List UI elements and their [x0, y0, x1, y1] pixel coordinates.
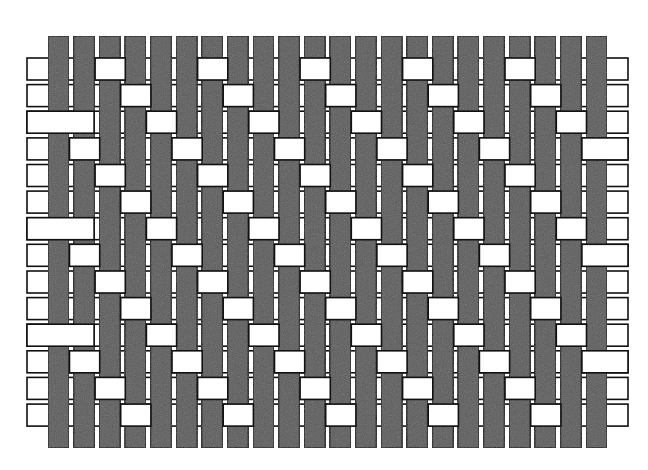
weft-float	[249, 111, 279, 133]
weft-float	[582, 138, 628, 160]
weft-float	[172, 244, 202, 266]
warp-thread	[74, 36, 95, 448]
weft-float	[531, 85, 561, 107]
weft-float	[582, 244, 628, 266]
weft-float	[249, 218, 279, 240]
weft-float	[27, 324, 94, 346]
weft-float	[531, 191, 561, 213]
weft-float	[377, 138, 407, 160]
weft-float	[428, 191, 458, 213]
weft-float	[428, 85, 458, 107]
weft-float	[95, 271, 125, 293]
weft-float	[95, 58, 125, 80]
weft-float	[454, 324, 484, 346]
weft-float	[505, 165, 535, 187]
weft-float	[146, 111, 176, 133]
weft-float	[479, 244, 509, 266]
warp-thread	[48, 36, 69, 448]
weft-float	[351, 218, 381, 240]
weft-float	[95, 165, 125, 187]
weft-float	[326, 404, 356, 426]
weft-float	[377, 244, 407, 266]
warp-thread	[458, 36, 479, 448]
weft-float	[505, 271, 535, 293]
weft-float	[454, 111, 484, 133]
weft-float	[223, 298, 253, 320]
weft-float	[300, 165, 330, 187]
twill-weave-diagram	[0, 0, 648, 470]
weft-float	[582, 351, 628, 373]
weft-float	[198, 165, 228, 187]
weft-float	[556, 218, 586, 240]
warp-thread	[381, 36, 402, 448]
warp-thread	[176, 36, 197, 448]
weft-float	[505, 58, 535, 80]
weft-float	[428, 298, 458, 320]
weft-float	[556, 111, 586, 133]
weft-float	[505, 377, 535, 399]
weft-float	[300, 377, 330, 399]
weft-float	[326, 85, 356, 107]
warp-thread	[253, 36, 274, 448]
warp-thread	[560, 36, 581, 448]
weft-float	[454, 218, 484, 240]
weft-float	[27, 218, 94, 240]
weft-float	[531, 404, 561, 426]
weft-float	[27, 111, 94, 133]
warp-thread	[484, 36, 505, 448]
weft-float	[403, 58, 433, 80]
weft-float	[403, 165, 433, 187]
weft-float	[300, 271, 330, 293]
weft-float	[70, 244, 100, 266]
weft-float	[198, 377, 228, 399]
weft-float	[121, 298, 151, 320]
weft-float	[275, 138, 305, 160]
weft-float	[223, 404, 253, 426]
weft-float	[95, 377, 125, 399]
weft-float	[351, 324, 381, 346]
weft-float	[70, 138, 100, 160]
weft-float	[223, 85, 253, 107]
weft-float	[479, 351, 509, 373]
weft-float	[300, 58, 330, 80]
weft-float	[121, 191, 151, 213]
weft-float	[403, 377, 433, 399]
warp-thread	[279, 36, 300, 448]
weft-float	[479, 138, 509, 160]
weft-float	[70, 351, 100, 373]
weft-float	[351, 111, 381, 133]
weft-float	[121, 85, 151, 107]
weft-float	[556, 324, 586, 346]
warp-thread	[355, 36, 376, 448]
weft-float	[275, 351, 305, 373]
weft-float	[428, 404, 458, 426]
weft-float	[172, 351, 202, 373]
weft-float	[121, 404, 151, 426]
weft-float	[249, 324, 279, 346]
weft-float	[198, 271, 228, 293]
weft-float	[172, 138, 202, 160]
weft-float	[377, 351, 407, 373]
weft-float	[275, 244, 305, 266]
weft-float	[146, 324, 176, 346]
weft-float	[326, 298, 356, 320]
warp-thread	[151, 36, 172, 448]
weft-float	[198, 58, 228, 80]
weft-float	[223, 191, 253, 213]
weft-float	[531, 298, 561, 320]
weft-float	[326, 191, 356, 213]
warp-thread	[586, 36, 607, 448]
weft-float	[403, 271, 433, 293]
weft-float	[146, 218, 176, 240]
